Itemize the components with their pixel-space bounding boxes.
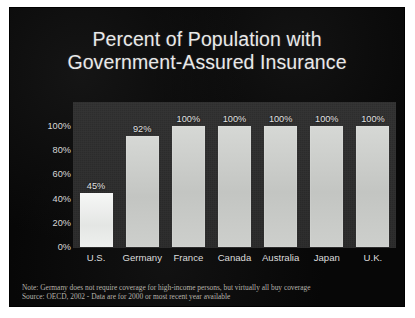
bar-value-label: 92%: [116, 124, 169, 134]
footnote-note: Note: Germany does not require coverage …: [22, 283, 402, 292]
y-axis-tick: 0%: [26, 242, 71, 252]
x-axis-tick: Australia: [258, 252, 304, 264]
bar-value-label: 100%: [162, 114, 215, 124]
bar-value-label: 45%: [70, 181, 123, 191]
bar-value-label: 100%: [208, 114, 261, 124]
x-axis-tick: Germany: [119, 252, 165, 264]
bar[interactable]: [80, 193, 113, 247]
y-axis-tick: 20%: [26, 218, 71, 228]
bar[interactable]: [218, 126, 251, 247]
bar-series: 45%92%100%100%100%100%100%: [73, 102, 396, 248]
page-title: Percent of Population with Government-As…: [10, 28, 404, 74]
bar[interactable]: [356, 126, 389, 247]
x-axis-tick: U.K.: [350, 252, 396, 264]
bar-group: 100%: [264, 102, 297, 248]
bar[interactable]: [172, 126, 205, 247]
title-line-2: Government-Assured Insurance: [10, 51, 404, 74]
bar-group: 100%: [218, 102, 251, 248]
bar-group: 100%: [172, 102, 205, 248]
x-axis-tick: Japan: [304, 252, 350, 264]
slide-canvas: Percent of Population with Government-As…: [10, 8, 404, 306]
bar-value-label: 100%: [300, 114, 353, 124]
x-axis-tick: U.S.: [73, 252, 119, 264]
bar[interactable]: [126, 136, 159, 247]
y-axis: 100%80%60%40%20%0%: [26, 102, 71, 248]
bar-group: 100%: [356, 102, 389, 248]
bar[interactable]: [264, 126, 297, 247]
title-line-1: Percent of Population with: [10, 28, 404, 51]
bar-value-label: 100%: [254, 114, 307, 124]
x-axis-tick: France: [165, 252, 211, 264]
y-axis-tick: 40%: [26, 194, 71, 204]
y-axis-tick: 100%: [26, 121, 71, 131]
bar-value-label: 100%: [346, 114, 399, 124]
y-axis-tick: 80%: [26, 145, 71, 155]
footnote-block: Note: Germany does not require coverage …: [22, 283, 402, 301]
bar[interactable]: [310, 126, 343, 247]
footnote-source: Source: OECD, 2002 - Data are for 2000 o…: [22, 292, 402, 301]
y-axis-tick: 60%: [26, 169, 71, 179]
bar-group: 92%: [126, 102, 159, 248]
bar-group: 100%: [310, 102, 343, 248]
x-axis-tick: Canada: [211, 252, 257, 264]
x-axis: U.S.GermanyFranceCanadaAustraliaJapanU.K…: [73, 252, 396, 266]
bar-group: 45%: [80, 102, 113, 248]
